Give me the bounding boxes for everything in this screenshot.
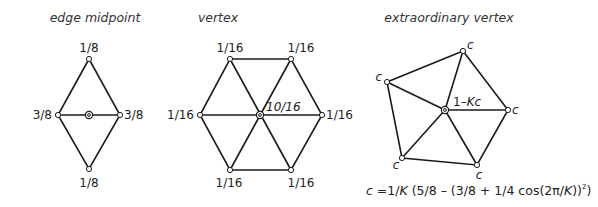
- formula-prefix: =1/: [373, 183, 400, 198]
- formula-mid: (5/8 – (3/8 + 1/4 cos(2π/: [408, 183, 565, 198]
- weight-label-left: 3/8: [33, 108, 52, 122]
- subdivision-weights-diagram: edge midpoint 1/8 3/8 3/8 1/8 vertex: [0, 0, 598, 207]
- weight-formula: c =1/K (5/8 – (3/8 + 1/4 cos(2π/K))2): [366, 183, 591, 198]
- edge-midpoint-panel: edge midpoint 1/8 3/8 3/8 1/8: [33, 10, 144, 190]
- weight-label-bottom-left: c: [393, 158, 400, 172]
- weight-label-bottom-right: 1/16: [288, 176, 315, 190]
- weight-label-bottom-left: 1/16: [216, 176, 243, 190]
- neighbor-node-right: [319, 112, 324, 117]
- neighbor-node-bottom-left: [399, 155, 404, 160]
- neighbor-node-left: [197, 112, 202, 117]
- extraordinary-vertex-title: extraordinary vertex: [384, 10, 514, 25]
- vertex-node-top: [86, 56, 91, 61]
- neighbor-node-left: [384, 79, 389, 84]
- spoke-bottom-right: [445, 110, 477, 165]
- vertex-title: vertex: [198, 10, 239, 25]
- spoke-bottom-left: [402, 110, 445, 158]
- weight-label-right: 3/8: [124, 108, 143, 122]
- neighbor-node-bottom-right: [474, 162, 479, 167]
- spoke-left: [387, 82, 445, 110]
- extraordinary-center-node-inner: [444, 109, 447, 112]
- weight-label-left: 1/16: [167, 108, 194, 122]
- weight-label-top: 1/8: [79, 41, 98, 55]
- vertex-node-bottom: [86, 166, 91, 171]
- vertex-node-right: [117, 112, 122, 117]
- edge-midpoint-title: edge midpoint: [50, 10, 142, 25]
- neighbor-node-bottom-left: [227, 167, 232, 172]
- neighbor-node-right: [505, 107, 510, 112]
- weight-label-center: 10/16: [266, 100, 301, 114]
- weight-label-center: 1–Kc: [453, 95, 482, 109]
- weight-label-right: c: [512, 103, 519, 117]
- center-weight-kc: Kc: [467, 95, 482, 109]
- vertex-panel: vertex 1/16 1/16 1/16 1/16 1/16 1/16 10/…: [167, 10, 353, 190]
- formula-end: )): [572, 183, 582, 198]
- neighbor-node-top: [460, 48, 465, 53]
- extraordinary-vertex-panel: extraordinary vertex c c c c c 1–Kc c =1…: [366, 10, 591, 198]
- formula-close: ): [586, 183, 591, 198]
- new-vertex-node-inner: [88, 114, 91, 117]
- neighbor-node-bottom-right: [288, 167, 293, 172]
- center-weight-prefix: 1–: [453, 95, 467, 109]
- weight-label-top: c: [467, 38, 474, 52]
- weight-label-left: c: [375, 70, 382, 84]
- weight-label-top-right: 1/16: [288, 41, 315, 55]
- weight-label-bottom: 1/8: [79, 176, 98, 190]
- weight-label-top-left: 1/16: [217, 41, 244, 55]
- weight-label-right: 1/16: [326, 108, 353, 122]
- center-vertex-node-inner: [259, 114, 262, 117]
- neighbor-node-top-left: [227, 56, 232, 61]
- weight-label-bottom-right: c: [476, 168, 483, 182]
- vertex-node-left: [55, 112, 60, 117]
- neighbor-node-top-right: [288, 56, 293, 61]
